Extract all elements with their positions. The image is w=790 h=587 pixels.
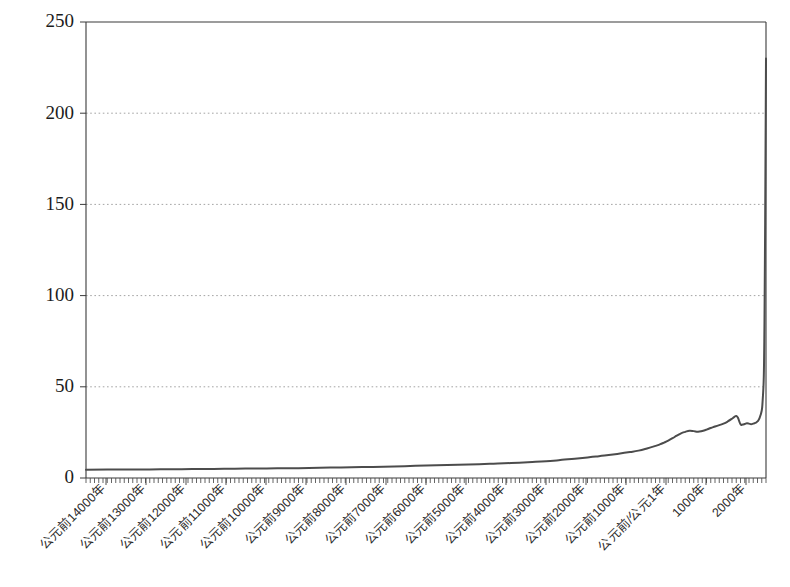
y-axis-tick-label: 150 [46, 193, 75, 214]
y-axis-tick-label: 0 [65, 466, 75, 487]
y-axis-tick-label: 250 [46, 10, 75, 31]
y-axis-tick-label: 100 [46, 284, 75, 305]
y-axis-tick-label: 50 [55, 375, 74, 396]
y-axis-tick-label: 200 [46, 102, 75, 123]
chart-background [0, 0, 790, 587]
population-history-chart: 050100150200250 公元前14000年公元前13000年公元前120… [0, 0, 790, 587]
chart-canvas: 050100150200250 公元前14000年公元前13000年公元前120… [0, 0, 790, 587]
